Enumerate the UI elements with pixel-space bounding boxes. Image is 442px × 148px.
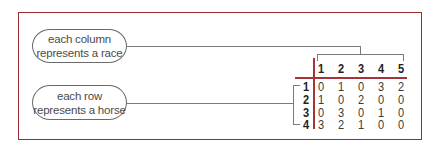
matrix-header-rule [295,77,407,79]
column-header: 1 [314,62,328,76]
row-connector-line [127,103,293,104]
matrix-cell: 1 [354,118,368,132]
column-bracket-bar [317,54,404,55]
column-bracket-left-tick [317,54,318,61]
row-callout-line1: each row [33,89,126,103]
column-header: 2 [334,62,348,76]
row-header: 4 [299,118,313,132]
column-callout: each column represents a race [32,29,127,63]
column-header: 5 [394,62,408,76]
matrix-cell: 2 [334,118,348,132]
column-callout-line1: each column [33,32,126,46]
row-callout-line2: represents a horse [33,103,126,117]
column-bracket-stem [360,46,361,54]
row-callout: each row represents a horse [32,85,127,120]
row-bracket-bar [293,85,294,124]
column-header: 4 [374,62,388,76]
matrix-cell: 0 [394,118,408,132]
column-bracket-right-tick [403,54,404,61]
column-header: 3 [354,62,368,76]
matrix-cell: 3 [314,118,328,132]
column-connector-line [127,46,361,47]
matrix-cell: 0 [374,118,388,132]
column-callout-line2: represents a race [33,46,126,60]
